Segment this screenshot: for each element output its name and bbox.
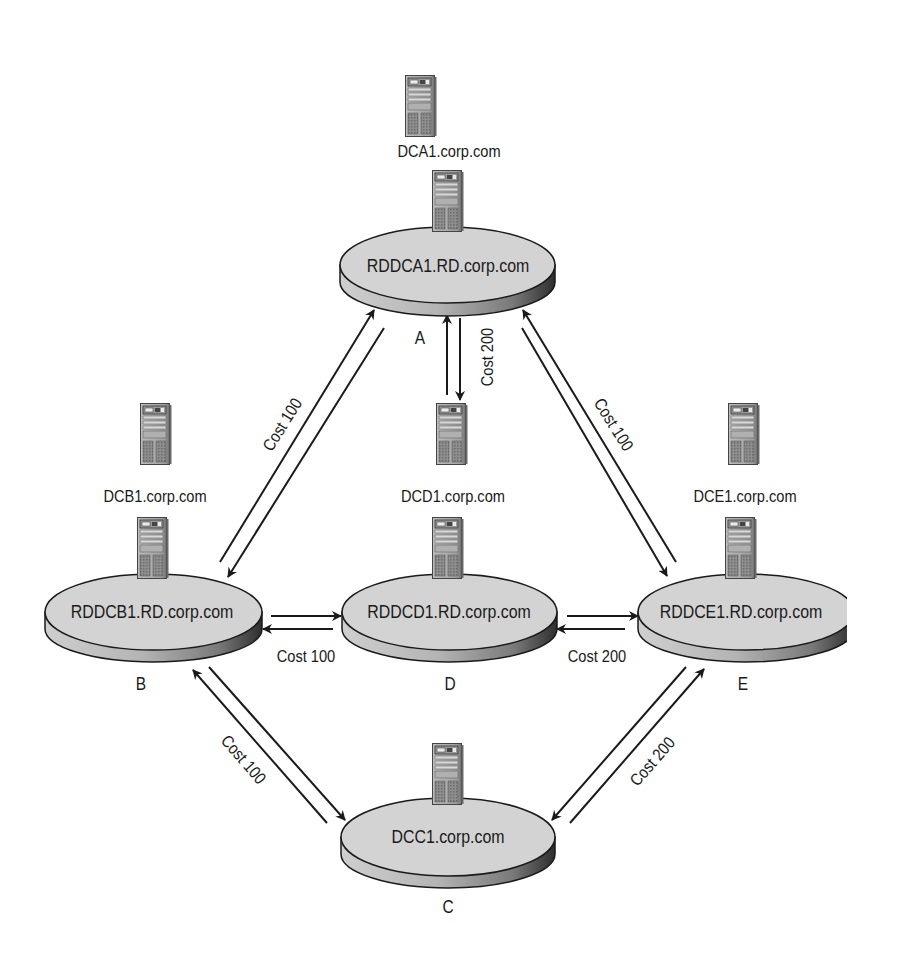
dc-label-d: DCD1.corp.com xyxy=(400,487,507,507)
server-tower-icon xyxy=(141,404,172,465)
server-tower-icon xyxy=(437,404,468,465)
server-tower-icon xyxy=(433,171,464,232)
link-e-c xyxy=(552,667,704,823)
site-topology-diagram: DCA1.corp.com RDDCA1.RD.corp.com A DCB1.… xyxy=(0,0,897,957)
server-tower-icon xyxy=(138,518,169,579)
link-b-d xyxy=(263,616,341,629)
server-tower-icon xyxy=(726,518,757,579)
dc-label-a: DCA1.corp.com xyxy=(396,142,503,162)
rodc-label-e: RDDCE1.RD.corp.com xyxy=(652,601,831,623)
rodc-label-d: RDDCD1.RD.corp.com xyxy=(360,601,539,623)
link-d-e xyxy=(557,616,638,629)
server-tower-icon xyxy=(433,744,464,805)
rodc-label-c: DCC1.corp.com xyxy=(388,826,508,848)
link-b-a xyxy=(220,310,384,577)
rodc-label-a: RDDCA1.RD.corp.com xyxy=(359,255,536,277)
site-letter-c: C xyxy=(441,897,455,918)
rodc-label-b: RDDCB1.RD.corp.com xyxy=(63,601,242,623)
cost-label-a-d: Cost 200 xyxy=(478,323,498,392)
cost-label-d-e: Cost 200 xyxy=(563,647,632,667)
link-a-e xyxy=(522,310,676,576)
site-letter-d: D xyxy=(443,674,457,695)
site-letter-b: B xyxy=(134,674,148,695)
site-letter-e: E xyxy=(736,674,750,695)
dc-label-e: DCE1.corp.com xyxy=(692,487,799,507)
link-a-d xyxy=(447,315,460,400)
server-tower-icon xyxy=(406,76,437,137)
server-tower-icon xyxy=(433,518,464,579)
cost-label-b-d: Cost 100 xyxy=(272,647,341,667)
dc-label-b: DCB1.corp.com xyxy=(102,487,209,507)
server-tower-icon xyxy=(729,404,760,465)
site-letter-a: A xyxy=(413,328,427,349)
